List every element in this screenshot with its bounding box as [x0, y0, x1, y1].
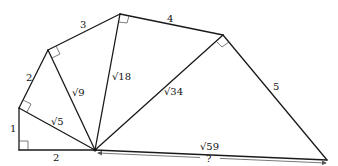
- center-point: [93, 148, 96, 151]
- label-hyp-sqrt9: √9: [72, 87, 85, 98]
- spoke-sqrt18: [95, 14, 120, 150]
- label-bottom-2: 2: [53, 152, 59, 163]
- label-left-1: 1: [10, 123, 16, 134]
- right-angle-marker-4: [217, 42, 229, 47]
- right-angle-marker-0: [19, 141, 28, 150]
- edge-5: [223, 35, 327, 160]
- label-side-2: 2: [26, 72, 32, 83]
- right-angle-marker-3: [119, 16, 129, 23]
- spiral-triangle-diagram: 2 1 2 3 4 5 √5 √9 √18 √34 √59 ?: [0, 0, 338, 166]
- spoke-sqrt5: [19, 108, 95, 150]
- label-side-5: 5: [273, 81, 279, 92]
- label-side-4: 4: [167, 13, 173, 24]
- label-hyp-sqrt5: √5: [51, 116, 64, 127]
- label-hyp-sqrt59: √59: [200, 141, 219, 152]
- edge-2: [19, 50, 48, 108]
- spoke-sqrt34: [95, 35, 223, 150]
- label-unknown: ?: [206, 153, 211, 164]
- label-side-3: 3: [80, 19, 86, 30]
- label-hyp-sqrt18: √18: [112, 71, 131, 82]
- spoke-sqrt9: [48, 50, 95, 150]
- label-hyp-sqrt34: √34: [164, 86, 183, 97]
